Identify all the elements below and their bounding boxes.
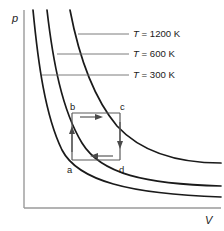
x-axis-label: V	[205, 214, 214, 226]
state-label-a: a	[67, 164, 73, 175]
state-labels-group: a b c d	[67, 101, 125, 175]
temperature-equals-600K: =	[139, 48, 150, 59]
process-arrow-b-to-c	[80, 114, 103, 120]
temperature-value-600K: 600 K	[150, 48, 176, 59]
temperature-value-1200K: 1200 K	[150, 28, 181, 39]
state-label-d: d	[119, 164, 124, 175]
temperature-label-300K: T = 300 K	[133, 69, 175, 80]
process-arrow-d-to-a	[90, 153, 113, 159]
state-label-b: b	[70, 101, 75, 112]
temperature-equals-1200K: =	[139, 28, 150, 39]
temperature-labels-group: T = 1200 K T = 600 K T = 300 K	[133, 28, 181, 80]
state-label-c: c	[120, 101, 125, 112]
temperature-equals-300K: =	[139, 69, 150, 80]
temperature-label-600K: T = 600 K	[133, 48, 175, 59]
process-arrows-group	[69, 114, 123, 159]
pv-diagram-figure: T = 1200 K T = 600 K T = 300 K	[0, 0, 224, 231]
temperature-label-1200K: T = 1200 K	[133, 28, 181, 39]
y-axis-label: p	[11, 12, 18, 24]
temperature-value-300K: 300 K	[150, 69, 176, 80]
pv-diagram-svg: T = 1200 K T = 600 K T = 300 K	[0, 0, 224, 231]
isotherms-group	[33, 10, 221, 197]
isotherm-curve-300K	[33, 10, 221, 197]
